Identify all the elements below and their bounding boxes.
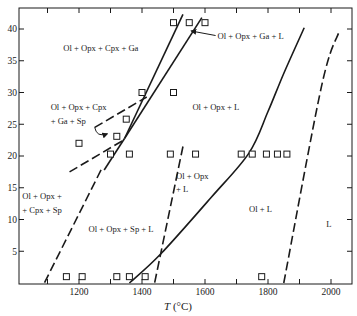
y-tick-label: 30 (8, 88, 18, 98)
region-label: Ol + Opx + Cpx (51, 102, 108, 112)
region-label: Ol + Opx + Ga + L (218, 31, 284, 41)
boundary-sp-out-dashed (155, 146, 183, 283)
phase-boundaries (44, 14, 339, 283)
region-label: Ol + Opx + (22, 191, 62, 201)
boundary-garnet-out-solidus-upper (125, 14, 183, 138)
experiment-square (108, 151, 114, 157)
region-label: Ol + L (249, 204, 272, 214)
experiment-square (76, 140, 82, 146)
pointer-arrow-icon (95, 127, 108, 135)
region-label: Ol + Opx + Sp + L (88, 224, 153, 234)
experiment-square (171, 20, 177, 26)
y-tick-label: 35 (8, 56, 18, 66)
region-labels: Ol + Opx + Cpx + GaOl + Opx + Ga + LOl +… (22, 31, 331, 235)
x-tick-label: 1400 (133, 287, 152, 297)
y-tick-label: 25 (8, 120, 18, 130)
experiment-square (114, 274, 120, 280)
x-tick-label: 1800 (259, 287, 278, 297)
boundary-garnet-in-upper (125, 18, 202, 139)
y-tick-label: 10 (8, 215, 18, 225)
experiment-square (126, 274, 132, 280)
experiment-square (263, 151, 269, 157)
y-tick-label: 5 (12, 247, 17, 257)
boundary-liquidus-dashed (284, 32, 339, 283)
x-tick-label: 1200 (70, 287, 89, 297)
experiment-square (238, 151, 244, 157)
region-label: Ol + Opx + L (192, 102, 239, 112)
region-label: L (326, 219, 331, 229)
experiment-square (171, 90, 177, 96)
x-tick-label: 2000 (322, 287, 341, 297)
y-tick-label: 15 (8, 183, 18, 193)
experiment-square (284, 151, 290, 157)
experiment-square (123, 116, 129, 122)
region-label: Ol + Opx + Cpx + Ga (63, 43, 138, 53)
experiment-square (142, 274, 148, 280)
pointer-arrow-icon (191, 31, 215, 36)
region-label: + Cpx + Sp (22, 205, 62, 215)
experiment-square (126, 151, 132, 157)
experiment-square (186, 20, 192, 26)
experiment-markers (63, 20, 290, 280)
y-tick-label: 40 (8, 24, 18, 34)
experiment-square (167, 151, 173, 157)
experiment-square (63, 274, 69, 280)
experiment-square (139, 90, 145, 96)
experiment-square (193, 151, 199, 157)
plot-area: 12001400160018002000510152025303540 Ol +… (0, 0, 357, 316)
phase-diagram: 12001400160018002000510152025303540 Ol +… (0, 0, 357, 316)
experiment-square (114, 133, 120, 139)
x-axis-title: T (°C) (164, 300, 192, 313)
x-tick-label: 1600 (196, 287, 215, 297)
experiment-square (202, 20, 208, 26)
experiment-square (259, 274, 265, 280)
experiment-square (274, 151, 280, 157)
experiment-square (79, 274, 85, 280)
region-label: Ol + Opx (176, 171, 209, 181)
experiment-square (249, 151, 255, 157)
y-tick-label: 20 (8, 151, 18, 161)
region-label: + L (176, 184, 188, 194)
region-label: + Ga + Sp (51, 116, 86, 126)
